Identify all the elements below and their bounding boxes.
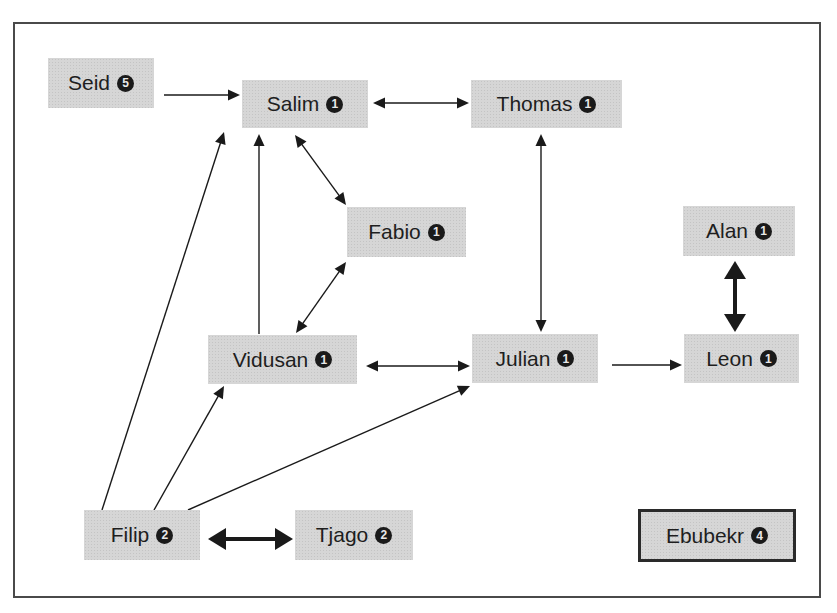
node-label: Seid xyxy=(68,71,110,95)
badge-count-icon: 2 xyxy=(375,527,392,544)
node-label: Leon xyxy=(706,347,753,371)
node-label: Tjago xyxy=(316,523,369,547)
node-label: Alan xyxy=(706,219,748,243)
node-label: Thomas xyxy=(497,92,573,116)
badge-count-icon: 1 xyxy=(326,96,343,113)
node-label: Julian xyxy=(496,347,551,371)
node-julian: Julian 1 xyxy=(472,334,598,383)
badge-count-icon: 1 xyxy=(760,350,777,367)
badge-count-icon: 1 xyxy=(428,224,445,241)
node-vidusan: Vidusan 1 xyxy=(208,335,357,384)
node-label: Filip xyxy=(111,523,150,547)
node-label: Salim xyxy=(267,92,320,116)
node-alan: Alan 1 xyxy=(683,206,795,256)
node-tjago: Tjago 2 xyxy=(295,510,413,560)
node-label: Vidusan xyxy=(233,348,309,372)
badge-count-icon: 2 xyxy=(156,527,173,544)
node-label: Ebubekr xyxy=(666,524,744,548)
node-seid: Seid 5 xyxy=(48,58,154,108)
badge-count-icon: 1 xyxy=(755,223,772,240)
badge-count-icon: 4 xyxy=(751,527,768,544)
badge-count-icon: 1 xyxy=(579,96,596,113)
node-fabio: Fabio 1 xyxy=(347,207,466,257)
node-filip: Filip 2 xyxy=(84,510,200,560)
node-salim: Salim 1 xyxy=(242,80,368,128)
node-label: Fabio xyxy=(368,220,421,244)
badge-count-icon: 1 xyxy=(315,351,332,368)
badge-count-icon: 1 xyxy=(557,350,574,367)
badge-count-icon: 5 xyxy=(117,75,134,92)
node-ebubekr: Ebubekr 4 xyxy=(638,509,796,562)
node-thomas: Thomas 1 xyxy=(471,80,622,128)
node-leon: Leon 1 xyxy=(684,334,799,383)
